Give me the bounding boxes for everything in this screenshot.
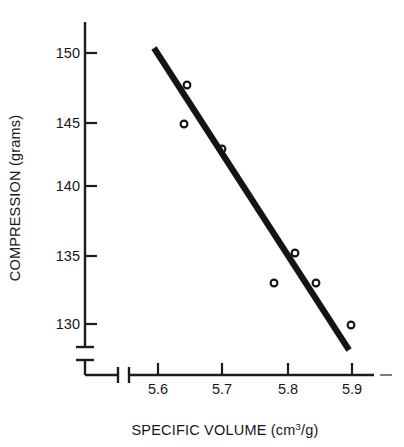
data-point [348,322,355,329]
data-point [181,121,188,128]
data-point [292,250,299,257]
x-tick-label-5-9: 5.9 [342,381,362,397]
data-point-group [181,82,355,329]
x-tick-label-5-8: 5.8 [278,381,298,397]
compression-axis: 150 145 140 135 130 [56,22,97,375]
y-tick-label-135: 135 [56,248,80,264]
y-tick-label-145: 145 [56,115,80,131]
y-tick-label-140: 140 [56,178,80,194]
scatter-plot-canvas: 150 145 140 135 130 5.6 5.7 5.8 5.9 [0,0,404,447]
x-axis-title: SPECIFIC VOLUME (cm3/g) [131,421,318,438]
data-point [313,280,320,287]
x-axis-title-tail: /g) [301,422,319,438]
y-axis-title: COMPRESSION (grams) [7,115,23,282]
regression-line [154,48,349,350]
y-tick-label-130: 130 [56,316,80,332]
x-axis-title-main: SPECIFIC VOLUME (cm [131,422,295,438]
x-tick-label-5-7: 5.7 [212,381,232,397]
data-point [271,280,278,287]
y-tick-label-150: 150 [56,45,80,61]
chart-figure: 150 145 140 135 130 5.6 5.7 5.8 5.9 [0,0,404,447]
data-point [184,82,191,89]
x-tick-label-5-6: 5.6 [148,381,168,397]
specific-volume-axis: 5.6 5.7 5.8 5.9 [85,363,392,397]
